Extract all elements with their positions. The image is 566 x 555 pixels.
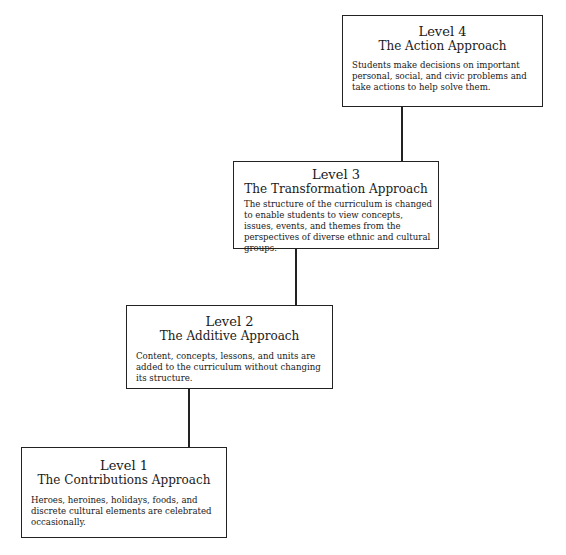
connector-3-2 bbox=[295, 248, 297, 306]
level-4-box: Level 4 The Action Approach Students mak… bbox=[342, 15, 543, 107]
level-3-box: Level 3 The Transformation Approach The … bbox=[233, 161, 439, 249]
connector-2-1 bbox=[188, 388, 190, 448]
level-1-title: Level 1 bbox=[22, 458, 226, 473]
level-4-description: Students make decisions on important per… bbox=[343, 60, 542, 93]
connector-4-3 bbox=[401, 106, 403, 162]
level-1-description: Heroes, heroines, holidays, foods, and d… bbox=[22, 495, 226, 528]
level-1-box: Level 1 The Contributions Approach Heroe… bbox=[21, 447, 227, 538]
level-3-approach: The Transformation Approach bbox=[234, 182, 438, 197]
level-1-approach: The Contributions Approach bbox=[22, 473, 226, 488]
level-2-approach: The Additive Approach bbox=[127, 329, 332, 344]
level-4-title: Level 4 bbox=[343, 24, 542, 39]
level-3-title: Level 3 bbox=[234, 167, 438, 182]
level-4-approach: The Action Approach bbox=[343, 39, 542, 54]
level-2-title: Level 2 bbox=[127, 314, 332, 329]
level-2-description: Content, concepts, lessons, and units ar… bbox=[127, 351, 332, 384]
level-2-box: Level 2 The Additive Approach Content, c… bbox=[126, 305, 333, 389]
level-3-description: The structure of the curriculum is chang… bbox=[234, 199, 438, 254]
